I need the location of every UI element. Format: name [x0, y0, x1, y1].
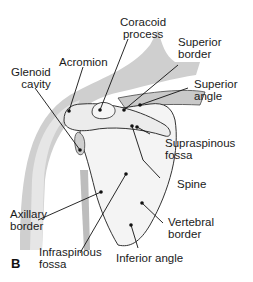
label-supraspinous-fossa: Supraspinous fossa	[165, 137, 235, 161]
label-vertebral-border: Vertebral border	[168, 216, 214, 240]
label-infraspinous-fossa: Infraspinous fossa	[39, 246, 102, 270]
label-superior-angle: Superior angle	[194, 78, 237, 102]
label-axillary-border: Axillary border	[10, 208, 47, 232]
label-inferior-angle: Inferior angle	[116, 252, 183, 264]
label-glenoid-cavity: Glenoid cavity	[11, 66, 51, 90]
label-superior-border: Superior border	[178, 36, 221, 60]
label-spine: Spine	[177, 178, 206, 190]
label-acromion: Acromion	[59, 56, 108, 68]
coracoid-process	[92, 102, 115, 118]
panel-letter: B	[11, 256, 20, 271]
label-coracoid-process: Coracoid process	[120, 16, 166, 40]
